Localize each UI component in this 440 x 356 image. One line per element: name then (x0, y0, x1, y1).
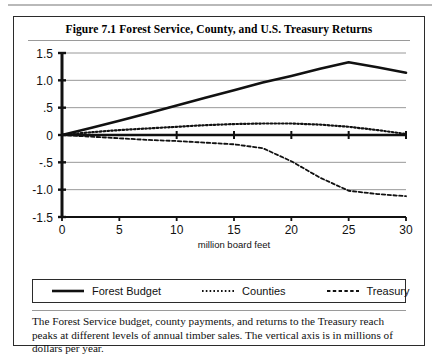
y-tick-label: 1.5 (36, 47, 53, 61)
y-axis-tick-labels: 1.51.0.50-.5-1.0-1.5 (32, 47, 53, 225)
y-tick-label: -1.0 (32, 183, 53, 197)
page-top-rule (8, 4, 432, 6)
x-axis-title: million board feet (198, 239, 271, 250)
legend-label: Treasury (367, 285, 410, 297)
x-tick-label: 0 (59, 223, 66, 237)
y-tick-label: 1.0 (36, 74, 53, 88)
x-tick-label: 10 (170, 223, 184, 237)
series-line-treasury (62, 135, 406, 196)
x-tick-label: 5 (116, 223, 123, 237)
y-tick-label: 0 (46, 129, 53, 143)
legend-item-counties: Counties (161, 285, 285, 297)
x-tick-label: 15 (227, 223, 241, 237)
caption-divider (32, 310, 406, 311)
plot-area: 1.51.0.50-.5-1.0-1.5 051015202530 millio… (14, 41, 424, 253)
x-axis-tick-labels: 051015202530 (59, 223, 413, 237)
y-tick-label: -1.5 (32, 211, 53, 225)
legend-item-treasury: Treasury (286, 285, 410, 297)
legend-label: Counties (242, 285, 285, 297)
legend-label: Forest Budget (92, 285, 161, 297)
figure-container: Figure 7.1 Forest Service, County, and U… (13, 16, 425, 346)
x-tick-label: 20 (285, 223, 299, 237)
line-chart: 1.51.0.50-.5-1.0-1.5 051015202530 millio… (14, 41, 424, 253)
chart-series (62, 62, 406, 196)
y-tick-label: -.5 (39, 156, 53, 170)
legend-swatch-dashed (326, 286, 360, 296)
figure-title: Figure 7.1 Forest Service, County, and U… (14, 17, 424, 39)
y-tick-label: .5 (43, 101, 53, 115)
legend-item-forest-budget: Forest Budget (33, 285, 161, 297)
legend-swatch-solid (51, 286, 85, 296)
x-tick-label: 30 (399, 223, 413, 237)
legend-swatch-dotted (201, 286, 235, 296)
x-tick-label: 25 (342, 223, 356, 237)
chart-legend: Forest BudgetCountiesTreasury (32, 279, 406, 303)
figure-caption: The Forest Service budget, county paymen… (32, 315, 410, 356)
